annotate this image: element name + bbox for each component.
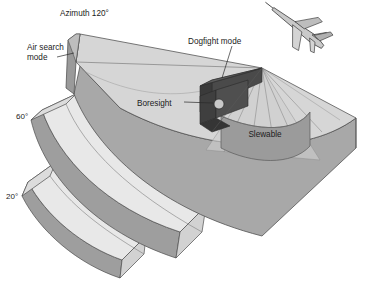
dogfight-label: Dogfight mode	[188, 37, 242, 46]
elevation-60-label: 60°	[16, 112, 28, 121]
slewable-label: Slewable	[248, 130, 282, 139]
air-search-label-line2: mode	[27, 53, 48, 62]
boresight-label: Boresight	[137, 99, 172, 108]
boresight-cylinder-icon	[214, 99, 224, 109]
air-search-label-line1: Air search	[27, 43, 64, 52]
diagram-canvas: Slewable	[0, 0, 367, 290]
radar-scan-volume-diagram: Slewable	[0, 0, 367, 290]
elevation-20-label: 20°	[6, 192, 18, 201]
azimuth-label: Azimuth 120°	[60, 9, 109, 18]
